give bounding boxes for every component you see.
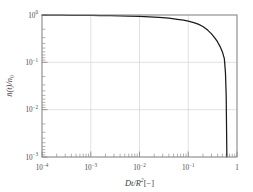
svg-text:10−1: 10−1 xyxy=(182,162,195,172)
y-axis-title: n̄(t)/n0 xyxy=(5,75,15,97)
x-tick-label-exponent-3: −1 xyxy=(189,162,195,168)
svg-text:10−1: 10−1 xyxy=(25,57,38,67)
log-log-decay-chart: 10−4 10−3 10−2 10−1 1 10−3 10−2 xyxy=(0,0,253,192)
x-tick-label-exponent-1: −3 xyxy=(92,162,98,168)
x-axis-title-main: Dt/R xyxy=(124,179,141,188)
svg-text:1: 1 xyxy=(235,164,239,172)
svg-text:100: 100 xyxy=(28,9,38,19)
y-tick-label-exponent-0: −3 xyxy=(33,151,39,157)
svg-text:10−3: 10−3 xyxy=(84,162,97,172)
x-tick-label-exponent-2: −2 xyxy=(140,162,146,168)
svg-text:10−4: 10−4 xyxy=(36,162,49,172)
x-axis-title-unit: [−] xyxy=(144,179,155,188)
y-tick-label-exponent-1: −2 xyxy=(33,104,39,110)
svg-text:10−3: 10−3 xyxy=(25,151,38,161)
x-tick-label-exponent-0: −4 xyxy=(43,162,49,168)
svg-text:10−2: 10−2 xyxy=(25,104,38,114)
y-tick-label-exponent-2: −1 xyxy=(33,57,39,63)
x-tick-labels: 10−4 10−3 10−2 10−1 1 xyxy=(36,162,240,172)
svg-text:10−2: 10−2 xyxy=(133,162,146,172)
x-axis-title: Dt/R2[−] xyxy=(124,177,154,188)
x-tick-label-mantissa-4: 1 xyxy=(235,164,239,172)
y-tick-label-exponent-3: 0 xyxy=(35,9,38,15)
svg-text:n̄(t)/n0: n̄(t)/n0 xyxy=(5,75,15,97)
chart-figure: 10−4 10−3 10−2 10−1 1 10−3 10−2 xyxy=(0,0,253,192)
y-tick-labels: 10−3 10−2 10−1 100 xyxy=(25,9,38,161)
y-axis-title-denom-sub: 0 xyxy=(9,75,15,78)
